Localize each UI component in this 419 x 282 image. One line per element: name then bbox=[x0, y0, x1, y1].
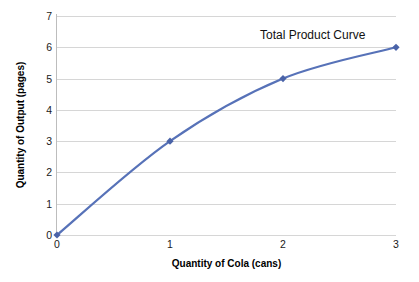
y-tick-label: 5 bbox=[34, 74, 52, 84]
gridline bbox=[57, 235, 396, 236]
curve-line bbox=[57, 47, 396, 235]
x-tick-label: 0 bbox=[46, 239, 68, 250]
y-tick-label: 3 bbox=[34, 136, 52, 146]
y-tick-label: 2 bbox=[34, 167, 52, 177]
y-tick-label: 6 bbox=[34, 42, 52, 52]
x-axis-title: Quantity of Cola (cans) bbox=[57, 258, 396, 270]
y-axis-title-label: Quantity of Output (pages) bbox=[15, 62, 27, 189]
x-tick-label: 1 bbox=[159, 239, 181, 250]
x-tick-label: 2 bbox=[272, 239, 294, 250]
y-tick-label: 1 bbox=[34, 199, 52, 209]
plot-area bbox=[57, 16, 396, 235]
x-tick-label: 3 bbox=[385, 239, 407, 250]
curve-annotation-label: Total Product Curve bbox=[260, 28, 365, 42]
y-axis-title: Quantity of Output (pages) bbox=[13, 10, 29, 240]
data-point-marker bbox=[392, 44, 399, 51]
y-tick-label: 7 bbox=[34, 11, 52, 21]
y-tick-label: 4 bbox=[34, 105, 52, 115]
chart-container: Quantity of Output (pages) 7 6 5 4 3 2 1… bbox=[0, 0, 419, 282]
data-point-markers bbox=[53, 44, 399, 239]
total-product-curve-series bbox=[57, 16, 396, 235]
data-point-marker bbox=[279, 75, 286, 82]
